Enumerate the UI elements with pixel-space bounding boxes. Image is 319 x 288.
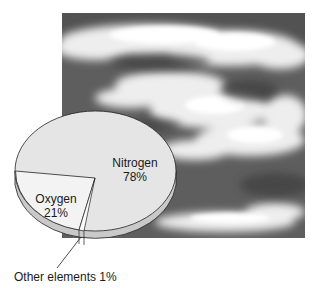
other-callout-leader xyxy=(57,237,81,268)
label-oxygen-pct: 21% xyxy=(44,206,68,220)
label-nitrogen-name: Nitrogen xyxy=(112,156,157,170)
label-nitrogen-pct: 78% xyxy=(123,170,147,184)
atmosphere-composition-figure: Nitrogen 78% Oxygen 21% Other elements 1… xyxy=(0,0,319,288)
label-other-callout: Other elements 1% xyxy=(14,270,117,284)
label-oxygen-name: Oxygen xyxy=(35,192,76,206)
pie-chart xyxy=(15,111,176,268)
